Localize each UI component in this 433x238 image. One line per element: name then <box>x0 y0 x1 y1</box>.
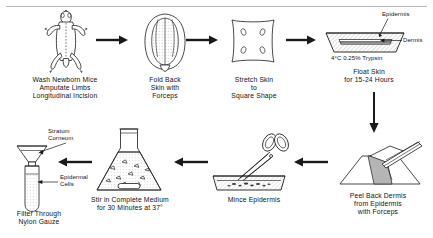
step-stretch-skin-caption: Stretch Skin to Square Shape <box>216 76 292 101</box>
arrow-6-7 <box>166 156 208 168</box>
top-divider-rule <box>6 6 427 7</box>
arrow-4-5 <box>368 92 380 136</box>
epidermal-cells-label: Epidermal Cells <box>60 174 100 188</box>
arrow-5-6 <box>288 156 328 168</box>
forceps-peel-icon <box>334 140 426 188</box>
epidermis-label: Epidermis <box>382 11 410 18</box>
step-wash-mice-caption: Wash Newborn Mice Amputate Limbs Longitu… <box>3 76 127 101</box>
scissors-tray-icon <box>212 128 292 194</box>
step-wash-mice-illustration <box>28 8 104 74</box>
step-mince-epidermis-illustration <box>212 128 292 194</box>
step-filter-gauze-caption: Filter Through Nylon Gauze <box>0 210 78 226</box>
arrow-3-4 <box>286 34 320 46</box>
step-fold-back-skin-caption: Fold Back Skin with Forceps <box>128 76 202 101</box>
step-stir-medium-illustration <box>92 126 166 194</box>
erlenmeyer-flask-icon <box>92 126 166 194</box>
arrow-1-2 <box>96 34 132 46</box>
step-peel-dermis-illustration <box>334 140 426 188</box>
step-mince-epidermis-caption: Mince Epidermis <box>208 196 300 204</box>
step-float-skin-caption: Float Skin for 15-24 Hours <box>326 68 412 84</box>
mouse-supine-icon <box>28 8 104 74</box>
dermis-label: Dermis <box>403 37 423 44</box>
stratum-corneum-label: Stratum Corneum <box>48 128 88 142</box>
trypsin-label: 4°C 0.25% Trypsin <box>331 55 382 62</box>
arrow-2-3 <box>186 34 222 46</box>
square-skin-icon <box>226 16 280 70</box>
step-peel-dermis-caption: Peel Back Dermis from Epidermis with For… <box>330 192 426 217</box>
step-stretch-skin-illustration <box>226 16 280 70</box>
